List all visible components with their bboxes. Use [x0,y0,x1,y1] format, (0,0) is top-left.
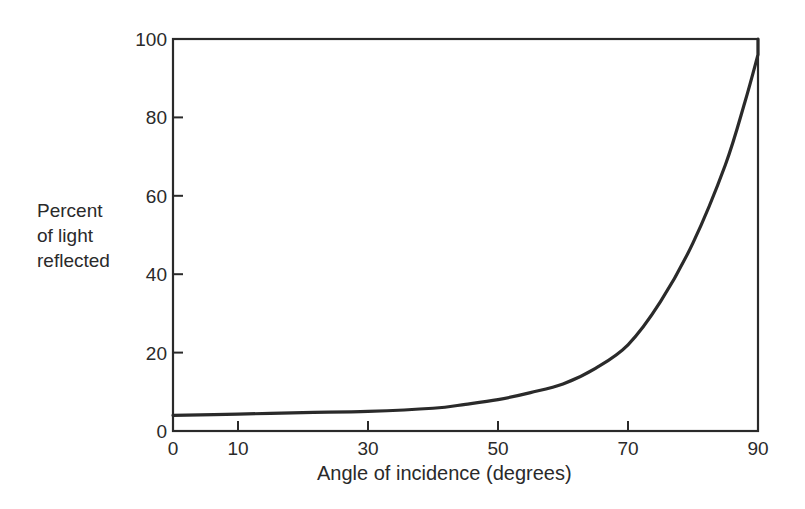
y-tick-label: 100 [135,29,167,50]
y-tick-label: 60 [146,186,167,207]
plot-frame [173,39,758,431]
y-axis-ticks: 020406080100 [135,29,183,442]
y-axis-label-line-3: reflected [37,248,110,273]
x-tick-label: 10 [227,438,248,459]
x-tick-label: 90 [747,438,768,459]
y-tick-label: 20 [146,343,167,364]
x-tick-label: 0 [168,438,179,459]
x-axis-ticks: 01030507090 [168,421,769,459]
y-tick-label: 0 [156,421,167,442]
y-axis-label: Percent of light reflected [37,198,110,273]
reflectance-chart: 020406080100 01030507090 [0,0,805,509]
y-tick-label: 80 [146,107,167,128]
y-axis-label-line-1: Percent [37,198,110,223]
reflectance-curve [173,39,758,415]
x-tick-label: 50 [487,438,508,459]
y-axis-label-line-2: of light [37,223,110,248]
x-tick-label: 30 [357,438,378,459]
x-axis-label: Angle of incidence (degrees) [317,462,572,485]
x-tick-label: 70 [617,438,638,459]
y-tick-label: 40 [146,264,167,285]
